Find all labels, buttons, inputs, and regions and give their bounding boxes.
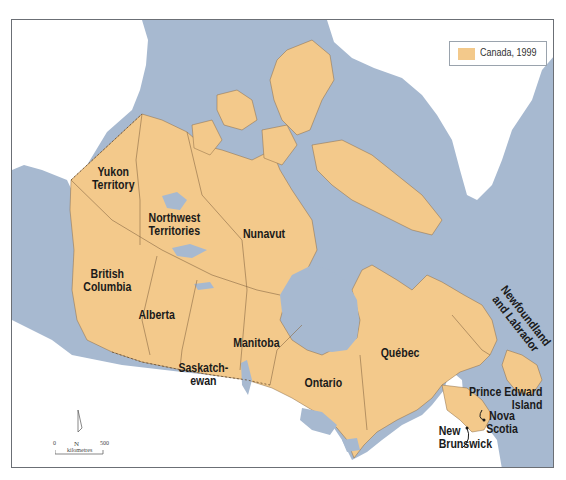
legend-swatch-canada [458, 48, 475, 60]
label-line: Alberta [138, 309, 174, 322]
legend-label: Canada, 1999 [480, 47, 537, 58]
label-line: Territory [92, 179, 135, 192]
label-manitoba: Manitoba [233, 337, 279, 350]
label-nunavut: Nunavut [243, 228, 285, 241]
label-line: Québec [381, 347, 420, 360]
baffin-island [312, 140, 442, 235]
north-arrow: N [72, 410, 86, 448]
scale-bar-line [55, 450, 105, 456]
map-legend: Canada, 1999 [449, 41, 547, 66]
label-line: Columbia [83, 281, 131, 294]
label-line: Ontario [305, 377, 343, 390]
hudson-bay [280, 265, 359, 352]
label-new-brunswick: New Brunswick [439, 425, 492, 451]
map-frame: Canada, 1999 Yukon Territory Northwest T… [11, 19, 554, 468]
label-line: Manitoba [233, 337, 279, 350]
pei-marker [483, 419, 486, 422]
arctic-island [270, 40, 334, 135]
label-line: Brunswick [439, 438, 492, 451]
north-arrow-icon [72, 410, 86, 440]
scale-end: 500 [100, 440, 109, 446]
label-alberta: Alberta [138, 309, 174, 322]
label-british-columbia: British Columbia [83, 268, 131, 294]
label-yukon: Yukon Territory [92, 166, 135, 192]
label-saskatchewan: Saskatch- ewan [178, 362, 228, 388]
label-line: Territories [149, 225, 201, 238]
label-line: ewan [178, 375, 228, 388]
scale-start: 0 [53, 440, 56, 446]
arctic-island [262, 125, 297, 165]
label-line: Nunavut [243, 228, 285, 241]
label-northwest-territories: Northwest Territories [149, 212, 201, 238]
arctic-island [217, 90, 257, 130]
label-ontario: Ontario [305, 377, 343, 390]
label-quebec: Québec [381, 347, 420, 360]
